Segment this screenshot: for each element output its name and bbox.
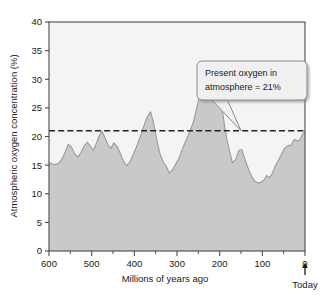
- x-axis-title: Millions of years ago: [122, 273, 209, 284]
- y-axis-title: Atmospheric oxygen concentration (%): [8, 54, 19, 217]
- x-tick-label: 500: [84, 258, 100, 269]
- callout-box: [197, 61, 307, 100]
- y-tick-label: 20: [31, 131, 42, 142]
- y-tick-label: 10: [31, 188, 42, 199]
- y-tick-label: 0: [37, 245, 42, 256]
- x-tick-label: 300: [169, 258, 185, 269]
- y-tick-label: 35: [31, 45, 42, 56]
- callout-line-1: Present oxygen in: [205, 68, 277, 78]
- x-tick-label: 600: [41, 258, 57, 269]
- y-tick-label: 40: [31, 16, 42, 27]
- y-tick-label: 5: [37, 217, 42, 228]
- oxygen-concentration-chart: 0510152025303540 6005004003002001000 Atm…: [0, 0, 329, 300]
- chart-canvas: 0510152025303540 6005004003002001000 Atm…: [0, 0, 329, 300]
- callout-line-2: atmosphere = 21%: [205, 82, 281, 92]
- x-tick-label: 200: [212, 258, 228, 269]
- x-tick-label: 100: [254, 258, 270, 269]
- y-tick-label: 15: [31, 160, 42, 171]
- x-axis-ticks: 6005004003002001000: [41, 251, 308, 269]
- y-tick-label: 25: [31, 102, 42, 113]
- today-label: Today: [292, 279, 318, 290]
- x-tick-label: 400: [126, 258, 142, 269]
- y-tick-label: 30: [31, 74, 42, 85]
- y-axis-ticks: 0510152025303540: [31, 16, 49, 256]
